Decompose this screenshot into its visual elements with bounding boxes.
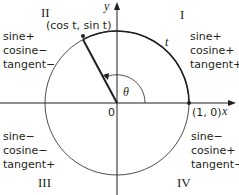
quadrant-ii-sine: sine+ [3, 30, 35, 43]
origin-label: 0 [108, 106, 115, 119]
arc-t [83, 31, 189, 103]
quadrant-ii-tangent: tangent− [3, 58, 55, 71]
point-label: (cos t, sin t) [46, 19, 111, 32]
x-axis-arrow-icon [228, 100, 236, 106]
y-axis-arrow-icon [114, 2, 120, 10]
point-marker [81, 34, 85, 38]
quadrant-iv-cosine: cosine+ [191, 144, 236, 157]
quadrant-iv-tangent: tangent− [191, 158, 239, 171]
quadrant-ii-cosine: cosine− [3, 44, 48, 57]
quadrant-i-cosine: cosine+ [190, 44, 235, 57]
y-axis-label: y [104, 0, 109, 13]
quadrant-i-tangent: tangent+ [190, 58, 239, 71]
unit-point-marker [187, 101, 191, 105]
quadrant-iv-label: IV [177, 175, 191, 191]
quadrant-iii-sine: sine− [3, 130, 35, 143]
theta-label: θ [123, 86, 129, 99]
arc-t-label: t [165, 36, 168, 49]
quadrant-iii-label: III [38, 175, 51, 191]
quadrant-i-label: I [180, 7, 184, 23]
quadrant-iii-tangent: tangent+ [3, 158, 55, 171]
quadrant-iv-sine: sine− [191, 130, 223, 143]
x-axis-label: x [222, 105, 227, 118]
terminal-side [83, 40, 117, 104]
unit-point-label: (1, 0) [192, 106, 222, 119]
quadrant-i-sine: sine+ [190, 30, 222, 43]
quadrant-iii-cosine: cosine− [3, 144, 48, 157]
